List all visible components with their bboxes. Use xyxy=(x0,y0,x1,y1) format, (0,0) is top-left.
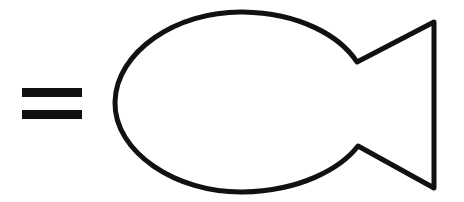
equals-lower-bar xyxy=(22,110,82,119)
drawing-canvas: An equals sign followed by a simple outl… xyxy=(0,0,464,202)
fish-drawing xyxy=(115,12,434,192)
equals-upper-bar xyxy=(22,88,82,97)
fish-outline-path xyxy=(115,12,434,192)
equals-sign xyxy=(22,88,82,119)
fish-figure: An equals sign followed by a simple outl… xyxy=(0,0,464,202)
